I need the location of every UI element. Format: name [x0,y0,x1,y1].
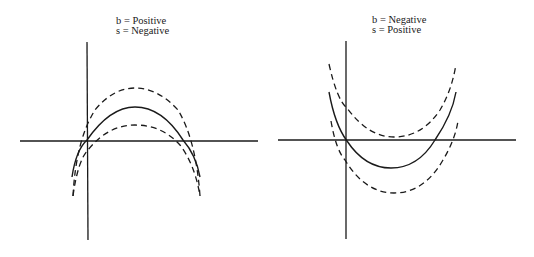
right-lower-dashed-curve [331,121,458,193]
left-panel [20,42,258,240]
diagram-canvas [0,0,534,257]
right-upper-dashed-curve [329,64,456,137]
right-solid-curve [329,92,456,168]
left-upper-dashed-curve [73,88,200,196]
right-panel [278,41,516,239]
